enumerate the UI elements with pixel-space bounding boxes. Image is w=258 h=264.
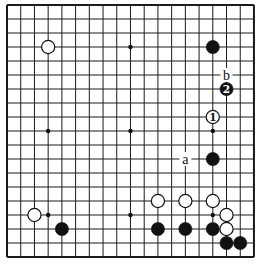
star-point [211,129,215,133]
marker-label: b [223,68,230,83]
star-point [128,45,132,49]
marker-b[interactable]: b [221,68,233,83]
star-point [46,129,50,133]
black-stone[interactable] [206,222,219,235]
white-stone[interactable] [220,222,233,235]
star-point [128,129,132,133]
marker-a[interactable]: a [179,152,191,167]
black-stone[interactable] [179,222,192,235]
white-stone-icon [28,208,41,221]
white-stone-icon [179,194,192,207]
black-stone[interactable] [220,236,233,249]
white-stone-icon [151,194,164,207]
black-stone-icon [234,236,247,249]
black-stone-icon [220,236,233,249]
black-stone[interactable] [206,40,219,53]
white-stone[interactable] [220,208,233,221]
white-stone-move-1[interactable]: 1 [206,110,219,123]
marker-label: a [182,152,189,167]
star-point [128,213,132,217]
white-stone-icon [220,208,233,221]
move-number-label: 2 [223,83,230,95]
star-point [46,213,50,217]
black-stone[interactable] [206,152,219,165]
black-stone-icon [151,222,164,235]
white-stone-icon [206,194,219,207]
white-stone[interactable] [151,194,164,207]
go-board[interactable]: ba 21 [0,0,258,264]
white-stone[interactable] [206,194,219,207]
black-stone-icon [179,222,192,235]
white-stone-icon [220,222,233,235]
black-stone-icon [206,152,219,165]
white-stone[interactable] [42,40,55,53]
black-stone[interactable] [234,236,247,249]
black-stone-icon [206,222,219,235]
black-stone-icon [206,40,219,53]
white-stone[interactable] [179,194,192,207]
white-stone-icon [42,40,55,53]
black-stone[interactable] [151,222,164,235]
white-stone[interactable] [28,208,41,221]
move-number-label: 1 [209,111,216,123]
black-stone-icon [55,222,68,235]
black-stone[interactable] [55,222,68,235]
star-point [211,213,215,217]
black-stone-move-2[interactable]: 2 [220,82,233,95]
